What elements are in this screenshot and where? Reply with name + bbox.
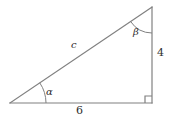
triangle-side-hypotenuse bbox=[10, 7, 152, 103]
right-angle-marker-icon bbox=[145, 96, 152, 103]
angle-beta-label: β bbox=[133, 27, 139, 37]
triangle-drawing bbox=[0, 0, 171, 120]
hypotenuse-label: c bbox=[71, 40, 77, 50]
angle-alpha-label: α bbox=[46, 87, 53, 97]
right-triangle-figure: c 4 6 α β bbox=[0, 0, 171, 120]
vertical-leg-label: 4 bbox=[157, 47, 164, 58]
horizontal-leg-label: 6 bbox=[76, 105, 83, 116]
